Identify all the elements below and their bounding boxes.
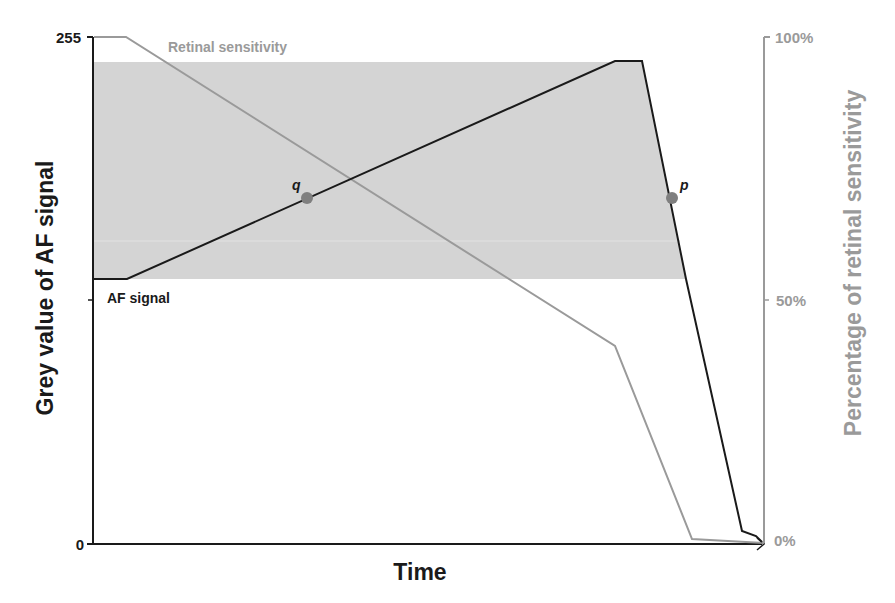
y-tick-label-0: 0 <box>76 536 84 553</box>
point-q-marker <box>301 192 313 204</box>
x-axis-title: Time <box>393 559 446 585</box>
point-p-label: p <box>679 177 689 193</box>
y2-axis-title: Percentage of retinal sensitivity <box>840 90 866 437</box>
point-p-marker <box>666 192 678 204</box>
chart: q p Retinal sensitivity AF signal 255 0 … <box>0 0 895 603</box>
y-axis-title: Grey value of AF signal <box>32 161 58 416</box>
shaded-band <box>94 62 686 279</box>
retinal-sensitivity-label: Retinal sensitivity <box>168 39 287 55</box>
y2-tick-label-0: 0% <box>774 532 796 549</box>
y2-tick-label-100: 100% <box>775 29 813 46</box>
point-q-label: q <box>292 177 301 193</box>
y-tick-label-255: 255 <box>56 29 81 46</box>
y2-tick-label-50: 50% <box>776 292 806 309</box>
af-signal-label: AF signal <box>107 290 170 306</box>
